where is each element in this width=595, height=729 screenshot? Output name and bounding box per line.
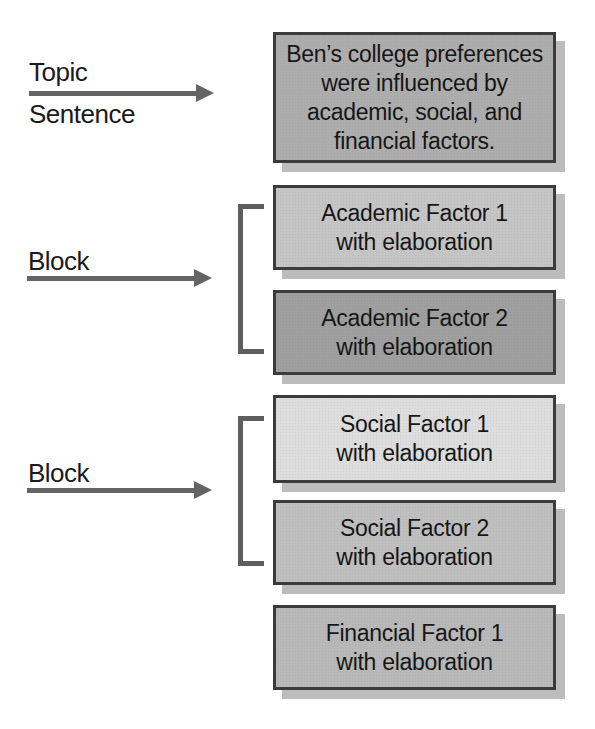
- academic-factor-1-box: Academic Factor 1 with elaboration: [273, 185, 556, 270]
- social-group-bracket-icon: [238, 416, 264, 566]
- block-label-social: Block: [28, 458, 89, 489]
- topic-sentence-label-line1: Topic: [29, 57, 87, 88]
- topic-sentence-text-line: were influenced by: [276, 69, 553, 98]
- social-factor-2-box: Social Factor 2 with elaboration: [273, 500, 556, 585]
- block-social-arrow-icon: [27, 488, 195, 493]
- topic-sentence-arrow-icon: [29, 91, 197, 96]
- block-academic-arrow-icon: [27, 276, 195, 281]
- factor-title: Social Factor 1: [276, 410, 553, 439]
- academic-factor-2-box: Academic Factor 2 with elaboration: [273, 290, 556, 375]
- factor-title: Financial Factor 1: [276, 619, 553, 648]
- academic-group-bracket-icon: [238, 204, 264, 354]
- social-factor-1-box: Social Factor 1 with elaboration: [273, 395, 556, 483]
- factor-elaboration: with elaboration: [276, 333, 553, 362]
- topic-sentence-label-line2: Sentence: [29, 99, 135, 130]
- factor-elaboration: with elaboration: [276, 228, 553, 257]
- paragraph-block-structure-diagram: Topic Sentence Block Block Ben’s college…: [0, 0, 595, 729]
- factor-title: Academic Factor 1: [276, 199, 553, 228]
- factor-elaboration: with elaboration: [276, 543, 553, 572]
- topic-sentence-box: Ben’s college preferences were influence…: [273, 32, 556, 163]
- topic-sentence-text-line: academic, social, and: [276, 98, 553, 127]
- block-label-academic: Block: [28, 246, 89, 277]
- factor-title: Academic Factor 2: [276, 304, 553, 333]
- financial-factor-1-box: Financial Factor 1 with elaboration: [273, 605, 556, 690]
- factor-elaboration: with elaboration: [276, 439, 553, 468]
- factor-title: Social Factor 2: [276, 514, 553, 543]
- topic-sentence-text-line: Ben’s college preferences: [276, 40, 553, 69]
- factor-elaboration: with elaboration: [276, 648, 553, 677]
- topic-sentence-text-line: financial factors.: [276, 127, 553, 156]
